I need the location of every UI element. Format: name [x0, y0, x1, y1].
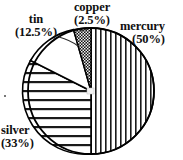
slice-label-tin-name: tin	[29, 12, 43, 26]
slice-label-silver-name: silver	[1, 123, 30, 137]
slice-label-silver-value: (33%)	[1, 137, 59, 150]
slice-label-copper-name: copper	[74, 0, 110, 14]
slice-label-mercury: mercury (50%)	[120, 20, 183, 46]
pie-slice-mercury	[91, 28, 154, 154]
slice-label-silver: silver (33%)	[1, 124, 59, 150]
slice-label-tin: tin (12.5%)	[8, 13, 64, 39]
slice-label-mercury-value: (50%)	[120, 33, 183, 46]
slice-label-mercury-name: mercury	[120, 19, 165, 33]
stray-dot-artifact	[4, 95, 6, 97]
slice-label-copper: copper (2.5%)	[62, 1, 122, 27]
slice-label-copper-value: (2.5%)	[62, 14, 122, 27]
slice-label-tin-value: (12.5%)	[8, 26, 64, 39]
center-mark	[87, 88, 94, 94]
pie-chart-figure: copper (2.5%) tin (12.5%) mercury (50%) …	[0, 0, 183, 160]
